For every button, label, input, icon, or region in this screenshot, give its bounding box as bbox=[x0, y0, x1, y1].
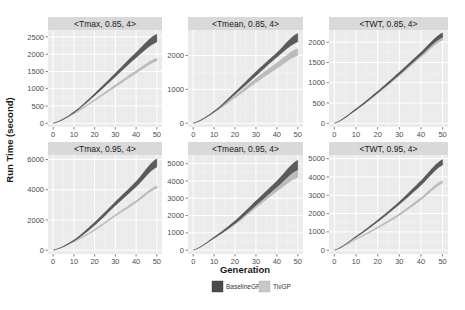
y-tick-label: 0 bbox=[321, 246, 325, 255]
y-tick-label: 1000 bbox=[308, 78, 325, 87]
x-tick-label: 10 bbox=[210, 257, 218, 266]
x-tick-label: 30 bbox=[395, 130, 403, 139]
x-tick-label: 40 bbox=[132, 257, 140, 266]
y-tick-label: 2000 bbox=[308, 209, 325, 218]
x-tick-label: 0 bbox=[51, 130, 55, 139]
x-tick-label: 10 bbox=[210, 130, 218, 139]
y-tick-label: 4000 bbox=[27, 185, 44, 194]
faceted-runtime-chart: <Tmax, 0.85, 4>0102030405005001000150020… bbox=[0, 0, 465, 310]
x-tick-label: 0 bbox=[332, 257, 336, 266]
facet-title: <Tmax, 0.95, 4> bbox=[74, 144, 136, 154]
y-tick-label: 0 bbox=[180, 119, 184, 128]
legend-swatch-baselinegp bbox=[212, 281, 223, 292]
legend-label-tivgp: TivGP bbox=[273, 283, 291, 290]
x-tick-label: 20 bbox=[90, 257, 98, 266]
x-tick-label: 30 bbox=[395, 257, 403, 266]
x-tick-label: 20 bbox=[90, 130, 98, 139]
y-tick-label: 1000 bbox=[27, 84, 44, 93]
x-tick-label: 40 bbox=[417, 130, 425, 139]
y-tick-label: 4000 bbox=[308, 173, 325, 182]
facet-panel-2: <Tmean, 0.85, 4>01020304050010002000 bbox=[167, 17, 303, 139]
y-tick-label: 1500 bbox=[308, 58, 325, 67]
facet-title: <TWT, 0.95, 4> bbox=[359, 144, 417, 154]
y-tick-label: 1500 bbox=[27, 67, 44, 76]
facet-panel-3: <TWT, 0.85, 4>01020304050050010001500200… bbox=[308, 17, 448, 139]
y-tick-label: 0 bbox=[180, 246, 184, 255]
x-tick-label: 20 bbox=[374, 257, 382, 266]
x-tick-label: 50 bbox=[153, 130, 161, 139]
x-axis-title: Generation bbox=[220, 264, 270, 275]
legend-label-baselinegp: BaselineGP bbox=[226, 283, 260, 290]
y-tick-label: 2000 bbox=[308, 38, 325, 47]
y-tick-label: 4000 bbox=[167, 177, 184, 186]
y-tick-label: 5000 bbox=[308, 154, 325, 163]
x-tick-label: 30 bbox=[111, 130, 119, 139]
y-tick-label: 500 bbox=[312, 99, 325, 108]
x-tick-label: 40 bbox=[417, 257, 425, 266]
facet-panel-5: <Tmean, 0.95, 4>010203040500100020003000… bbox=[167, 142, 303, 266]
x-tick-label: 50 bbox=[294, 257, 302, 266]
x-tick-label: 0 bbox=[191, 257, 195, 266]
y-tick-label: 5000 bbox=[167, 159, 184, 168]
x-tick-label: 40 bbox=[132, 130, 140, 139]
y-tick-label: 2000 bbox=[27, 216, 44, 225]
x-tick-label: 0 bbox=[191, 130, 195, 139]
facet-panel-1: <Tmax, 0.85, 4>0102030405005001000150020… bbox=[27, 17, 162, 139]
x-tick-label: 50 bbox=[438, 257, 446, 266]
x-tick-label: 10 bbox=[70, 257, 78, 266]
y-tick-label: 6000 bbox=[27, 155, 44, 164]
y-tick-label: 500 bbox=[31, 102, 44, 111]
x-tick-label: 40 bbox=[273, 130, 281, 139]
y-tick-label: 3000 bbox=[308, 191, 325, 200]
x-tick-label: 10 bbox=[70, 130, 78, 139]
y-tick-label: 2000 bbox=[167, 211, 184, 220]
x-tick-label: 20 bbox=[374, 130, 382, 139]
y-tick-label: 2000 bbox=[167, 51, 184, 60]
y-tick-label: 1000 bbox=[167, 228, 184, 237]
legend: BaselineGPTivGP bbox=[212, 281, 291, 292]
x-tick-label: 20 bbox=[231, 130, 239, 139]
x-tick-label: 10 bbox=[352, 257, 360, 266]
x-tick-label: 50 bbox=[153, 257, 161, 266]
y-tick-label: 2000 bbox=[27, 50, 44, 59]
x-tick-label: 30 bbox=[252, 130, 260, 139]
x-tick-label: 50 bbox=[294, 130, 302, 139]
y-tick-label: 0 bbox=[40, 246, 44, 255]
y-tick-label: 1000 bbox=[308, 227, 325, 236]
x-tick-label: 0 bbox=[51, 257, 55, 266]
y-tick-label: 3000 bbox=[167, 194, 184, 203]
facet-title: <TWT, 0.85, 4> bbox=[359, 19, 417, 29]
facet-panel-6: <TWT, 0.95, 4>01020304050010002000300040… bbox=[308, 142, 448, 266]
x-tick-label: 30 bbox=[111, 257, 119, 266]
x-tick-label: 0 bbox=[332, 130, 336, 139]
y-tick-label: 0 bbox=[321, 119, 325, 128]
x-tick-label: 10 bbox=[352, 130, 360, 139]
y-tick-label: 0 bbox=[40, 119, 44, 128]
x-tick-label: 40 bbox=[273, 257, 281, 266]
facet-title: <Tmean, 0.95, 4> bbox=[212, 144, 279, 154]
legend-swatch-tivgp bbox=[259, 281, 270, 292]
facet-title: <Tmean, 0.85, 4> bbox=[212, 19, 279, 29]
y-axis-title: Run Time (second) bbox=[4, 97, 15, 182]
y-tick-label: 1000 bbox=[167, 85, 184, 94]
y-tick-label: 2500 bbox=[27, 33, 44, 42]
facet-panel-4: <Tmax, 0.95, 4>010203040500200040006000 bbox=[27, 142, 162, 266]
x-tick-label: 50 bbox=[438, 130, 446, 139]
facet-title: <Tmax, 0.85, 4> bbox=[74, 19, 136, 29]
